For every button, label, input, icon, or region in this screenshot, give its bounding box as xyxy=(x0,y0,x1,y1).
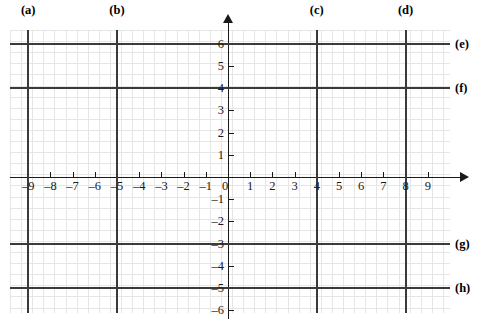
grid-line-vertical xyxy=(165,30,166,313)
x-axis-label: –8 xyxy=(38,180,62,193)
x-axis-tick xyxy=(250,172,251,177)
grid-line-vertical xyxy=(110,30,111,313)
grid-line-vertical xyxy=(132,30,133,313)
y-axis-label: –1 xyxy=(198,193,224,206)
grid-line-vertical xyxy=(54,30,55,313)
y-axis-label: 1 xyxy=(198,149,224,162)
y-axis-tick xyxy=(229,66,234,67)
grid-line-vertical xyxy=(121,30,122,313)
y-axis-label: –5 xyxy=(198,282,224,295)
y-axis-label-wrap: –5 xyxy=(198,282,224,294)
y-axis-label: 5 xyxy=(198,60,224,73)
x-axis-tick xyxy=(50,172,51,177)
y-axis-label-wrap: 6 xyxy=(198,38,224,50)
x-axis-label: –7 xyxy=(61,180,85,193)
grid-line-horizontal xyxy=(10,74,450,75)
x-axis-tick xyxy=(161,172,162,177)
grid-line-vertical xyxy=(88,30,89,313)
grid-line-vertical xyxy=(276,30,277,313)
grid-line-vertical xyxy=(354,30,355,313)
grid-line-vertical xyxy=(77,30,78,313)
y-axis-label: –3 xyxy=(198,238,224,251)
y-axis-tick xyxy=(229,155,234,156)
grid-line-vertical xyxy=(99,30,100,313)
callout-e: (e) xyxy=(455,38,469,51)
x-axis-label: 7 xyxy=(371,180,395,193)
grid-line-horizontal xyxy=(10,219,450,220)
grid-line-vertical xyxy=(310,30,311,313)
grid-line-vertical xyxy=(321,30,322,313)
grid-line-vertical xyxy=(32,30,33,313)
grid-line-horizontal xyxy=(10,141,450,142)
y-axis-label-wrap: 5 xyxy=(198,60,224,72)
x-axis-label: 3 xyxy=(283,180,307,193)
x-axis-label: 9 xyxy=(416,180,440,193)
y-axis-label: –4 xyxy=(198,260,224,273)
y-axis-tick xyxy=(229,310,234,311)
y-axis-label-wrap: –1 xyxy=(198,193,224,205)
callout-d: (d) xyxy=(398,4,413,17)
x-axis-label: –3 xyxy=(149,180,173,193)
grid-line-horizontal xyxy=(10,274,450,275)
x-axis-tick xyxy=(383,172,384,177)
x-axis-label: –1 xyxy=(194,180,218,193)
x-axis-tick xyxy=(339,172,340,177)
x-axis-tick xyxy=(139,172,140,177)
x-axis-label: –2 xyxy=(172,180,196,193)
grid-line-vertical xyxy=(188,30,189,313)
x-axis-tick xyxy=(184,172,185,177)
x-axis-arrow-icon xyxy=(460,172,469,182)
y-axis-label: 4 xyxy=(198,82,224,95)
grid-line-horizontal xyxy=(10,108,450,109)
x-axis-label: –4 xyxy=(127,180,151,193)
y-axis-tick xyxy=(229,199,234,200)
grid-line-vertical xyxy=(66,30,67,313)
grid-line-horizontal xyxy=(10,119,450,120)
grid-line-vertical xyxy=(421,30,422,313)
x-axis-label: 4 xyxy=(305,180,329,193)
y-axis-tick xyxy=(229,221,234,222)
x-axis-label: 8 xyxy=(394,180,418,193)
x-axis xyxy=(10,177,462,178)
x-axis-label: –9 xyxy=(16,180,40,193)
x-axis-label: 1 xyxy=(238,180,262,193)
y-axis-label: 2 xyxy=(198,127,224,140)
x-axis-label: –5 xyxy=(105,180,129,193)
grid-line-vertical xyxy=(154,30,155,313)
y-axis-tick xyxy=(229,110,234,111)
grid-line-vertical xyxy=(288,30,289,313)
grid-line-horizontal xyxy=(10,263,450,264)
grid-line-vertical xyxy=(265,30,266,313)
y-axis-label-wrap: –2 xyxy=(198,215,224,227)
grid-line-horizontal xyxy=(10,30,450,31)
y-axis-label-wrap: 3 xyxy=(198,104,224,116)
callout-h: (h) xyxy=(455,282,470,295)
callout-g: (g) xyxy=(455,237,470,250)
callout-a: (a) xyxy=(21,4,36,17)
grid-line-vertical xyxy=(376,30,377,313)
x-axis-label: 2 xyxy=(260,180,284,193)
x-axis-tick xyxy=(272,172,273,177)
grid-line-horizontal xyxy=(10,97,450,98)
grid-line-vertical xyxy=(365,30,366,313)
grid-line-horizontal xyxy=(10,130,450,131)
grid-line-horizontal xyxy=(10,163,450,164)
grid-line-vertical xyxy=(243,30,244,313)
coordinate-grid-figure: –9–8–7–6–5–4–3–2–1123456789654321–1–2–3–… xyxy=(0,0,477,321)
grid-line-vertical xyxy=(177,30,178,313)
y-axis xyxy=(228,18,229,319)
grid-line-horizontal xyxy=(10,252,450,253)
x-axis-tick xyxy=(428,172,429,177)
grid-line-horizontal xyxy=(10,197,450,198)
vertical-line-a xyxy=(27,30,29,313)
horizontal-line-g xyxy=(10,243,450,245)
grid-line-horizontal xyxy=(10,230,450,231)
x-axis-tick xyxy=(295,172,296,177)
grid-line-vertical xyxy=(399,30,400,313)
grid-line-vertical xyxy=(21,30,22,313)
grid-line-horizontal xyxy=(10,63,450,64)
y-axis-label: 3 xyxy=(198,104,224,117)
grid-line-vertical xyxy=(299,30,300,313)
y-axis-label-wrap: 4 xyxy=(198,82,224,94)
grid-line-vertical xyxy=(232,30,233,313)
